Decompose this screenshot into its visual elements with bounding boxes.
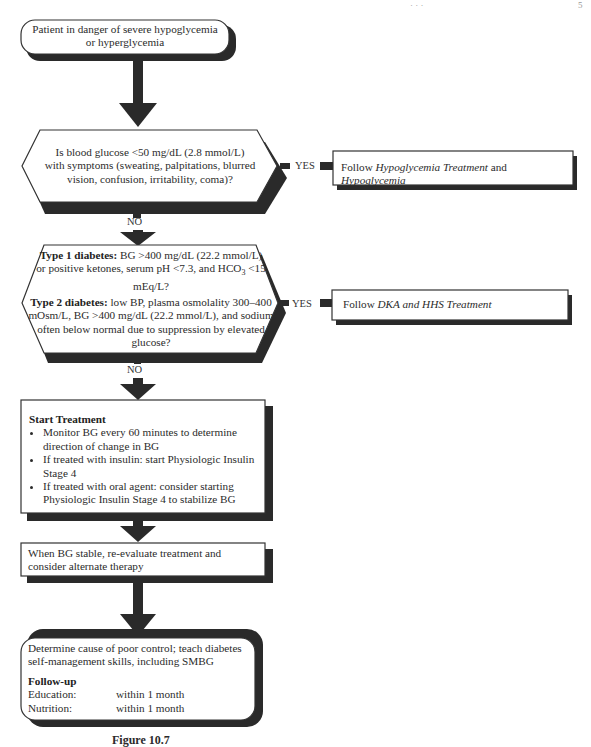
start-line-1: Patient in danger of severe hypoglycemia <box>21 23 229 36</box>
followup-value: within 1 month <box>116 702 184 715</box>
action1-prefix: Follow <box>341 161 376 173</box>
action2-link-dka-hhs-treatment: DKA and HHS Treatment <box>378 298 492 310</box>
followup-label: Nutrition: <box>28 702 116 715</box>
decision1-line-1: Is blood glucose <50 mg/dL (2.8 mmol/L) <box>30 146 270 159</box>
treatment-heading: Start Treatment <box>29 413 106 425</box>
decision2-type2-criteria: Type 2 diabetes: low BP, plasma osmolali… <box>28 296 274 350</box>
arrow-down-4 <box>120 520 156 542</box>
action2-text: Follow DKA and HHS Treatment <box>343 298 563 311</box>
action1-middle: and <box>488 161 507 173</box>
treatment-list: Monitor BG every 60 minutes to determine… <box>29 426 261 506</box>
final-box: Determine cause of poor control; teach d… <box>28 642 252 715</box>
action1-link-hypoglycemia-treatment: Hypoglycemia Treatment <box>376 161 488 173</box>
action1-link-hypoglycemia: Hypoglycemia <box>341 174 406 186</box>
action1-text: Follow Hypoglycemia Treatment and Hypogl… <box>341 161 573 188</box>
followup-label: Education: <box>28 688 116 701</box>
decision1-question: Is blood glucose <50 mg/dL (2.8 mmol/L) … <box>30 146 270 186</box>
followup-row-education: Education: within 1 month <box>28 688 252 701</box>
followup-value: within 1 month <box>116 688 184 701</box>
decision1-line-2: with symptoms (sweating, palpitations, b… <box>30 159 270 172</box>
final-text: Determine cause of poor control; teach d… <box>28 642 252 669</box>
arrow-down-5 <box>120 582 156 636</box>
type1-heading: Type 1 diabetes: <box>40 249 117 261</box>
action2-prefix: Follow <box>343 298 378 310</box>
treatment-box: Start Treatment Monitor BG every 60 minu… <box>29 413 261 507</box>
decision2-yes-label: YES <box>292 298 312 309</box>
reevaluate-text: When BG stable, re-evaluate treatment an… <box>28 547 258 574</box>
decision1-no-label: NO <box>127 216 142 227</box>
arrow-down-1 <box>119 60 157 127</box>
treatment-item: If treated with insulin: start Physiolog… <box>43 453 261 480</box>
page-number-fragment: 5 <box>578 0 583 10</box>
start-line-2: or hyperglycemia <box>21 36 229 49</box>
treatment-item: If treated with oral agent: consider sta… <box>43 480 261 507</box>
type2-heading: Type 2 diabetes: <box>30 296 107 308</box>
decision2-type1-criteria: Type 1 diabetes: BG >400 mg/dL (22.2 mmo… <box>36 249 266 293</box>
figure-caption: Figure 10.7 <box>112 734 170 747</box>
treatment-item: Monitor BG every 60 minutes to determine… <box>43 426 261 453</box>
followup-heading: Follow-up <box>28 675 77 687</box>
decision1-line-3: vision, confusion, irritability, coma)? <box>30 173 270 186</box>
followup-row-nutrition: Nutrition: within 1 month <box>28 702 252 715</box>
start-terminator: Patient in danger of severe hypoglycemia… <box>21 23 229 50</box>
decision2-no-label: NO <box>127 364 142 375</box>
decision1-yes-label: YES <box>295 160 315 171</box>
page-header-fragment: · · · <box>410 0 424 10</box>
